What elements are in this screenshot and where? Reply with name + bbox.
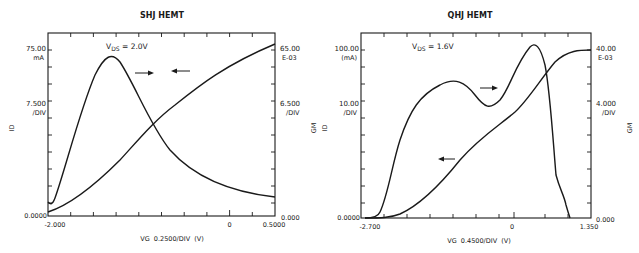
left-axis-unit: (mA) xyxy=(341,54,357,62)
gm-direction-arrow xyxy=(135,71,154,76)
x-axis-min: -2.000 xyxy=(45,221,66,229)
chart-shj-hemt: SHJ HEMT VDS = 2.0V 75.00 mA 7.5 xyxy=(8,11,318,243)
left-axis-title: ID xyxy=(321,125,329,132)
x-axis-zero: 0 xyxy=(228,221,232,229)
left-axis-top: 100.00 xyxy=(335,45,360,53)
id-curve xyxy=(48,44,275,212)
right-axis-bottom: 0.000 xyxy=(596,216,615,224)
right-axis-title: GM xyxy=(310,123,318,134)
chart-qhj-hemt: QHJ HEMT VDS = 1.6V 100.00 (mA) 10.00 /D… xyxy=(321,11,634,245)
right-axis-title: GM xyxy=(626,123,634,134)
x-axis-min: -2.700 xyxy=(360,223,381,231)
x-axis-title: VG 0.2500/DIV (V) xyxy=(140,235,204,243)
left-axis-div: 10.00 xyxy=(339,100,359,108)
right-axis-div-label: /DIV xyxy=(286,109,300,117)
chart-title: SHJ HEMT xyxy=(140,11,184,20)
vds-annotation: VDS = 1.6V xyxy=(412,42,455,52)
gm-direction-arrow xyxy=(480,86,498,91)
right-axis-unit: E-03 xyxy=(282,54,297,62)
left-axis-top: 75.00 xyxy=(26,45,46,53)
x-axis-title: VG 0.4500/DIV (V) xyxy=(447,237,511,245)
id-direction-arrow xyxy=(438,157,455,162)
left-axis-div: 7.500 xyxy=(26,100,46,108)
id-direction-arrow xyxy=(171,69,190,74)
x-axis-max: 0.5000 xyxy=(263,221,286,229)
left-axis-div-label: /DIV xyxy=(32,109,46,117)
right-axis-div: 6.500 xyxy=(280,100,300,108)
left-axis-bottom: 0.0000 xyxy=(337,214,360,222)
right-axis-unit: E-03 xyxy=(598,54,613,62)
gm-curve xyxy=(365,45,570,218)
vds-annotation: VDS = 2.0V xyxy=(106,42,149,52)
left-axis-div-label: /DIV xyxy=(343,109,357,117)
right-axis-top: 65.00 xyxy=(280,45,300,53)
x-axis-max: 1.350 xyxy=(580,223,599,231)
left-axis-bottom: 0.0000 xyxy=(24,212,47,220)
x-axis-zero: 0 xyxy=(510,223,514,231)
right-axis-top: 40.00 xyxy=(596,45,616,53)
chart-figure: SHJ HEMT VDS = 2.0V 75.00 mA 7.5 xyxy=(0,0,639,253)
id-curve xyxy=(365,50,591,218)
right-axis-div: 4.000 xyxy=(596,100,616,108)
chart-title: QHJ HEMT xyxy=(448,11,493,20)
left-axis-title: ID xyxy=(8,125,16,132)
gm-curve xyxy=(48,56,275,203)
left-axis-unit: mA xyxy=(33,54,44,62)
right-axis-div-label: /DIV xyxy=(602,109,616,117)
